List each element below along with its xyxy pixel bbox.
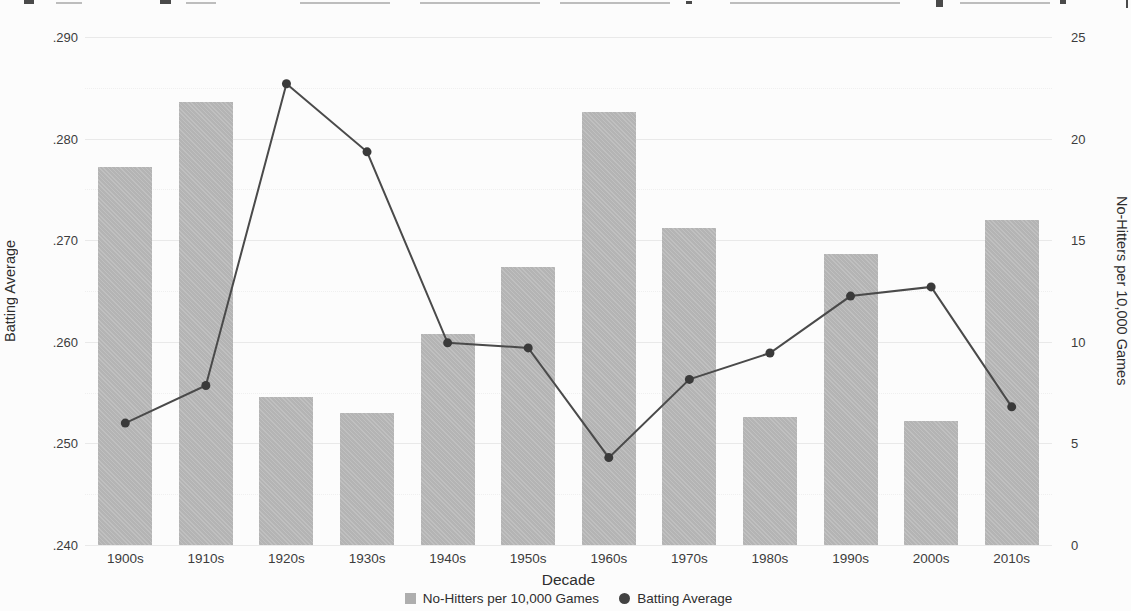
data-point-1970s bbox=[685, 375, 694, 384]
data-point-2010s bbox=[1007, 402, 1016, 411]
clipped-title-remnant bbox=[1126, 0, 1128, 8]
x-axis-tick-label: 1970s bbox=[649, 551, 729, 566]
legend: No-Hitters per 10,000 Games Batting Aver… bbox=[85, 591, 1052, 606]
right-axis-title: No-Hitters per 10,000 Games bbox=[1114, 37, 1130, 545]
clipped-title-remnant bbox=[24, 0, 34, 4]
legend-label: Batting Average bbox=[637, 591, 732, 606]
clipped-title-remnant bbox=[730, 2, 900, 4]
x-axis-tick-label: 1900s bbox=[85, 551, 165, 566]
right-axis-tick-label: 15 bbox=[1071, 233, 1115, 248]
clipped-title-remnant bbox=[686, 1, 692, 4]
data-point-1900s bbox=[121, 419, 130, 428]
x-axis-tick-label: 1920s bbox=[246, 551, 326, 566]
legend-item-batting-average: Batting Average bbox=[619, 591, 732, 606]
data-point-1960s bbox=[604, 453, 613, 462]
batting-average-line bbox=[125, 84, 1011, 458]
x-axis-tick-label: 2010s bbox=[972, 551, 1052, 566]
x-axis-tick-label: 1980s bbox=[730, 551, 810, 566]
line-series-swatch-icon bbox=[619, 593, 630, 604]
x-axis-tick-label: 1950s bbox=[488, 551, 568, 566]
x-axis-tick-label: 1960s bbox=[569, 551, 649, 566]
clipped-title-remnant bbox=[160, 0, 171, 4]
left-axis-tick-label: .290 bbox=[28, 30, 78, 45]
left-axis-tick-label: .280 bbox=[28, 131, 78, 146]
right-axis-tick-label: 25 bbox=[1071, 30, 1115, 45]
x-axis-tick-label: 1930s bbox=[327, 551, 407, 566]
line-series-layer bbox=[85, 37, 1052, 545]
data-point-1980s bbox=[765, 348, 774, 357]
left-axis-tick-label: .270 bbox=[28, 233, 78, 248]
left-axis-tick-label: .240 bbox=[28, 538, 78, 553]
clipped-title-remnant bbox=[1060, 0, 1066, 4]
legend-item-no-hitters: No-Hitters per 10,000 Games bbox=[405, 591, 599, 606]
right-axis-tick-label: 10 bbox=[1071, 334, 1115, 349]
chart-canvas: .240.250.260.270.280.290 0510152025 1900… bbox=[0, 0, 1131, 611]
clipped-title-remnant bbox=[960, 2, 1050, 4]
x-axis-title: Decade bbox=[85, 571, 1052, 589]
left-axis-tick-label: .260 bbox=[28, 334, 78, 349]
data-point-1910s bbox=[201, 381, 210, 390]
legend-label: No-Hitters per 10,000 Games bbox=[423, 591, 599, 606]
clipped-title-remnant bbox=[300, 2, 390, 4]
major-gridline bbox=[85, 545, 1052, 546]
clipped-title-remnant bbox=[560, 2, 670, 4]
clipped-title-remnant bbox=[420, 2, 540, 4]
data-point-1940s bbox=[443, 338, 452, 347]
clipped-title-remnant bbox=[56, 2, 82, 4]
data-point-1950s bbox=[524, 343, 533, 352]
right-axis-tick-label: 20 bbox=[1071, 131, 1115, 146]
x-axis-tick-label: 1910s bbox=[166, 551, 246, 566]
clipped-title-remnant bbox=[186, 2, 216, 4]
left-axis-title: Batting Average bbox=[2, 37, 18, 545]
x-axis-tick-label: 1940s bbox=[408, 551, 488, 566]
x-axis-tick-label: 2000s bbox=[891, 551, 971, 566]
data-point-1920s bbox=[282, 79, 291, 88]
right-axis-tick-label: 0 bbox=[1071, 538, 1115, 553]
left-axis-tick-label: .250 bbox=[28, 436, 78, 451]
data-point-1930s bbox=[363, 147, 372, 156]
data-point-1990s bbox=[846, 292, 855, 301]
clipped-title-remnant bbox=[936, 0, 943, 7]
bar-series-swatch-icon bbox=[405, 593, 416, 604]
x-axis-tick-label: 1990s bbox=[811, 551, 891, 566]
data-point-2000s bbox=[927, 282, 936, 291]
right-axis-tick-label: 5 bbox=[1071, 436, 1115, 451]
